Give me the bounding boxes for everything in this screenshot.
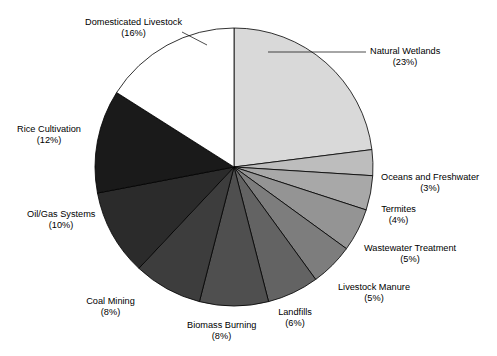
- pie-slice-label-percent: (8%): [86, 307, 135, 318]
- pie-slice-label: Landfills(6%): [278, 307, 312, 330]
- pie-slice-label-name: Coal Mining: [86, 296, 135, 307]
- pie-slice-label: Coal Mining(8%): [86, 296, 135, 319]
- pie-slice-label: Domesticated Livestock(16%): [85, 17, 182, 40]
- pie-slice-label-name: Biomass Burning: [187, 320, 256, 331]
- pie-slice-label-percent: (10%): [27, 220, 95, 231]
- pie-slice-label: Livestock Manure(5%): [338, 282, 410, 305]
- pie-slice-label-percent: (5%): [338, 293, 410, 304]
- pie-slice-label-percent: (6%): [278, 318, 312, 329]
- pie-slice-label: Wastewater Treatment(5%): [364, 243, 456, 266]
- pie-slices-group: [95, 28, 373, 306]
- pie-slice-label-name: Domesticated Livestock: [85, 17, 182, 28]
- pie-slice-label-percent: (4%): [381, 215, 416, 226]
- pie-slice-label-name: Livestock Manure: [338, 282, 410, 293]
- pie-slice-label-percent: (12%): [17, 135, 81, 146]
- pie-slice-label-name: Landfills: [278, 307, 312, 318]
- pie-slice-label-percent: (3%): [381, 183, 479, 194]
- pie-slice-label-percent: (8%): [187, 331, 256, 342]
- pie-slice-label-name: Oceans and Freshwater: [381, 172, 479, 183]
- pie-slice-label: Natural Wetlands(23%): [370, 46, 440, 69]
- pie-slice-label: Oceans and Freshwater(3%): [381, 172, 479, 195]
- pie-slice-label-name: Rice Cultivation: [17, 124, 81, 135]
- pie-slice-label: Rice Cultivation(12%): [17, 124, 81, 147]
- pie-slice-label-percent: (23%): [370, 57, 440, 68]
- pie-slice-label-percent: (16%): [85, 28, 182, 39]
- pie-chart-page: Natural Wetlands(23%)Oceans and Freshwat…: [0, 0, 497, 356]
- pie-slice-label-name: Natural Wetlands: [370, 46, 440, 57]
- pie-slice-label-percent: (5%): [364, 254, 456, 265]
- pie-slice-label-name: Wastewater Treatment: [364, 243, 456, 254]
- pie-slice[interactable]: [234, 28, 372, 167]
- pie-slice-label: Oil/Gas Systems(10%): [27, 209, 95, 232]
- pie-slice-label-name: Oil/Gas Systems: [27, 209, 95, 220]
- pie-slice-label: Termites(4%): [381, 204, 416, 227]
- pie-slice-label-name: Termites: [381, 204, 416, 215]
- pie-slice-label: Biomass Burning(8%): [187, 320, 256, 343]
